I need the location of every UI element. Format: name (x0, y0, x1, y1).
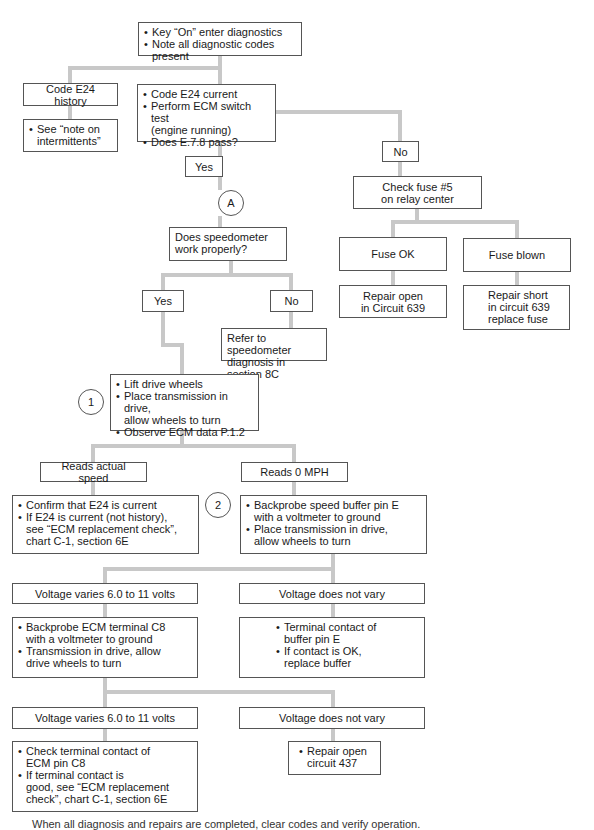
backprobe-ecm-bullet: Transmission in drive, allow drive wheel… (18, 645, 192, 669)
backprobe-buffer-bullet: Place transmission in drive, allow wheel… (246, 523, 421, 547)
see-note-bullet: See “note on intermittents” (29, 123, 112, 147)
speedometer-question-label: Does speedometer work properly? (175, 231, 268, 255)
marker-a: A (218, 190, 244, 216)
repair-open-437-box: Repair open circuit 437 (288, 741, 381, 775)
repair-short-639-box: Repair short in circuit 639 replace fuse (463, 285, 570, 330)
code-history-box: Code E24 history (23, 83, 118, 106)
confirm-e24-bullet: Confirm that E24 is current (18, 499, 193, 511)
repair-short-639-label: Repair short in circuit 639 replace fuse (488, 289, 550, 325)
reads-zero-mph-box: Reads 0 MPH (241, 462, 348, 482)
lift-wheels-box: Lift drive wheels Place transmission in … (110, 374, 259, 431)
marker-2-label: 2 (215, 499, 221, 511)
marker-a-label: A (227, 197, 234, 209)
no-branch-2: No (270, 290, 313, 312)
reads-zero-mph-label: Reads 0 MPH (260, 466, 328, 478)
lift-wheels-bullet: Place transmission in drive, allow wheel… (116, 390, 253, 426)
start-bullet: Note all diagnostic codes present (144, 38, 296, 62)
check-ecm-pin-bullet: Check terminal contact of ECM pin C8 (18, 745, 192, 769)
marker-2: 2 (205, 492, 231, 518)
yes-label: Yes (154, 295, 172, 307)
check-fuse-label: Check fuse #5 on relay center (381, 181, 454, 205)
no-branch-1: No (382, 141, 419, 162)
start-step-box: Key “On” enter diagnostics Note all diag… (138, 22, 302, 56)
yes-branch-1: Yes (185, 156, 223, 177)
reads-actual-speed-label: Reads actual speed (46, 460, 141, 484)
voltage-not-vary-label: Voltage does not vary (279, 588, 385, 600)
speedometer-question-box: Does speedometer work properly? (169, 227, 287, 261)
terminal-buffer-bullet: If contact is OK, replace buffer (276, 645, 419, 669)
footer-note: When all diagnosis and repairs are compl… (32, 818, 420, 830)
marker-1: 1 (78, 389, 104, 415)
check-ecm-pin-bullet: If terminal contact is good, see “ECM re… (18, 769, 192, 805)
backprobe-ecm-box: Backprobe ECM terminal C8 with a voltmet… (12, 617, 198, 678)
backprobe-buffer-bullet: Backprobe speed buffer pin E with a volt… (246, 499, 421, 523)
check-fuse-box: Check fuse #5 on relay center (353, 176, 482, 209)
fuse-ok-label: Fuse OK (371, 248, 414, 260)
marker-1-label: 1 (88, 396, 94, 408)
start-bullet: Key “On” enter diagnostics (144, 26, 296, 38)
code-current-bullet: Perform ECM switch test (engine running) (143, 100, 270, 136)
backprobe-ecm-bullet: Backprobe ECM terminal C8 with a voltmet… (18, 621, 192, 645)
refer-speedometer-box: Refer to speedometer diagnosis in sectio… (221, 328, 327, 361)
no-label: No (284, 295, 298, 307)
voltage-not-vary-box-2: Voltage does not vary (239, 707, 425, 729)
code-current-bullet: Code E24 current (143, 88, 270, 100)
voltage-varies-box-2: Voltage varies 6.0 to 11 volts (12, 707, 198, 729)
backprobe-buffer-box: Backprobe speed buffer pin E with a volt… (240, 495, 427, 554)
repair-open-639-box: Repair open in Circuit 639 (339, 285, 447, 318)
fuse-blown-box: Fuse blown (463, 238, 571, 272)
lift-wheels-bullet: Lift drive wheels (116, 378, 253, 390)
code-current-box: Code E24 current Perform ECM switch test… (137, 84, 276, 142)
check-ecm-pin-box: Check terminal contact of ECM pin C8 If … (12, 741, 198, 812)
yes-branch-2: Yes (142, 290, 184, 312)
code-history-label: Code E24 history (29, 83, 112, 107)
repair-open-437-bullet: Repair open circuit 437 (299, 745, 375, 769)
voltage-varies-box-1: Voltage varies 6.0 to 11 volts (12, 583, 198, 604)
voltage-not-vary-label: Voltage does not vary (279, 712, 385, 724)
lift-wheels-bullet: Observe ECM data P.1.2 (116, 426, 253, 438)
confirm-e24-box: Confirm that E24 is current If E24 is cu… (12, 495, 199, 554)
reads-actual-speed-box: Reads actual speed (40, 462, 147, 482)
voltage-varies-label: Voltage varies 6.0 to 11 volts (35, 712, 175, 724)
code-current-bullet: Does E.7.8 pass? (143, 136, 270, 148)
confirm-e24-bullet: If E24 is current (not history), see “EC… (18, 511, 193, 547)
yes-label: Yes (195, 161, 213, 173)
fuse-ok-box: Fuse OK (339, 237, 447, 271)
see-note-box: See “note on intermittents” (23, 119, 118, 152)
terminal-buffer-box: Terminal contact of buffer pin E If cont… (239, 617, 425, 678)
no-label: No (393, 146, 407, 158)
fuse-blown-label: Fuse blown (489, 249, 545, 261)
voltage-varies-label: Voltage varies 6.0 to 11 volts (35, 588, 175, 600)
voltage-not-vary-box-1: Voltage does not vary (239, 583, 425, 604)
repair-open-639-label: Repair open in Circuit 639 (361, 290, 425, 314)
terminal-buffer-bullet: Terminal contact of buffer pin E (276, 621, 419, 645)
